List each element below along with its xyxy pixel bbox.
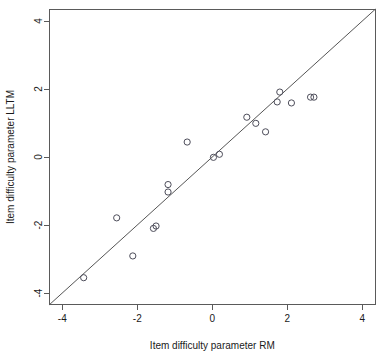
identity-line (49, 9, 375, 305)
x-tick-label: -4 (58, 313, 67, 324)
data-point (165, 189, 171, 195)
data-point (216, 151, 222, 157)
data-point (274, 99, 280, 105)
data-point (262, 129, 268, 135)
x-tick-label: 2 (285, 313, 291, 324)
y-tick-label: 2 (33, 86, 44, 92)
x-tick-label: 4 (360, 313, 366, 324)
data-point (184, 139, 190, 145)
data-points (81, 89, 317, 281)
data-point (244, 114, 250, 120)
axis-titles: Item difficulty parameter RMItem difficu… (5, 90, 275, 351)
data-point (165, 181, 171, 187)
data-point (277, 89, 283, 95)
data-point (130, 253, 136, 259)
x-axis-title: Item difficulty parameter RM (150, 340, 275, 351)
y-tick-label: -2 (33, 220, 44, 229)
data-point (81, 275, 87, 281)
x-axis: -4-2024 (49, 305, 375, 324)
data-point (288, 100, 294, 106)
y-axis: -4-2024 (33, 9, 49, 305)
data-point (253, 120, 259, 126)
data-point (114, 215, 120, 221)
y-tick-label: 4 (33, 18, 44, 24)
scatter-plot-figure: -4-2024 -4-2024 Item difficulty paramete… (0, 0, 387, 360)
y-tick-label: -4 (33, 288, 44, 297)
plot-canvas: -4-2024 -4-2024 Item difficulty paramete… (0, 0, 387, 360)
identity-reference-line (49, 9, 375, 305)
x-tick-label: -2 (133, 313, 142, 324)
y-tick-label: 0 (33, 154, 44, 160)
x-tick-label: 0 (210, 313, 216, 324)
y-axis-title: Item difficulty parameter LLTM (5, 90, 16, 224)
